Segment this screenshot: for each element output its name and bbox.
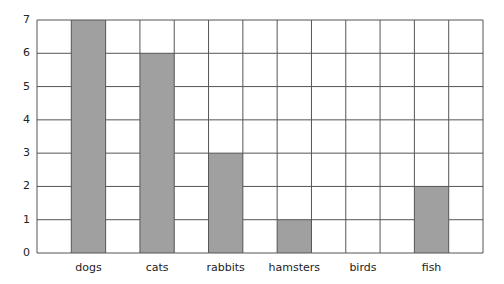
plot-area	[0, 0, 504, 284]
bar-hamsters	[277, 220, 311, 253]
y-tick-label: 7	[10, 14, 30, 26]
y-tick-label: 5	[10, 81, 30, 93]
bar-chart: 01234567 dogscatsrabbitshamstersbirdsfis…	[0, 0, 504, 284]
y-tick-label: 4	[10, 114, 30, 126]
y-tick-label: 0	[10, 247, 30, 259]
bar-fish	[414, 186, 448, 253]
y-tick-label: 6	[10, 47, 30, 59]
bar-rabbits	[209, 153, 243, 253]
bar-cats	[140, 53, 174, 253]
bar-dogs	[71, 20, 105, 253]
x-tick-label: fish	[392, 262, 472, 274]
y-tick-label: 3	[10, 147, 30, 159]
y-tick-label: 1	[10, 214, 30, 226]
y-tick-label: 2	[10, 180, 30, 192]
